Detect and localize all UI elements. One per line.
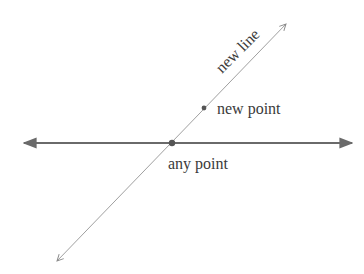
diagram-canvas: new point any point new line	[0, 0, 364, 274]
any-point-dot	[169, 140, 175, 146]
new-point-dot	[202, 106, 207, 111]
any-point-label: any point	[168, 155, 229, 173]
new-point-label: new point	[217, 100, 281, 118]
new-line-label: new line	[212, 25, 263, 76]
